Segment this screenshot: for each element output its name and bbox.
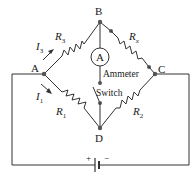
node-a bbox=[42, 72, 46, 76]
node-d bbox=[98, 126, 102, 130]
r1-label: R1 bbox=[55, 105, 67, 120]
r3-label: R3 bbox=[54, 30, 66, 45]
battery-plus-label: + bbox=[86, 153, 91, 163]
node-c bbox=[153, 72, 157, 76]
switch-label: Switch bbox=[96, 88, 123, 98]
i3-label: I3 bbox=[35, 40, 44, 55]
r2-label: R2 bbox=[132, 105, 144, 120]
node-b bbox=[98, 20, 102, 24]
node-label-c: C bbox=[158, 63, 165, 75]
resistor-r3 bbox=[44, 22, 100, 74]
ammeter-label: Ammeter bbox=[103, 69, 140, 79]
i3-arrow-icon bbox=[43, 49, 54, 60]
ammeter-symbol: A bbox=[96, 51, 104, 63]
i1-arrow-icon bbox=[41, 84, 52, 94]
node-label-b: B bbox=[95, 5, 102, 17]
resistor-r2 bbox=[100, 74, 155, 128]
i1-label: I1 bbox=[35, 90, 44, 105]
resistor-r1 bbox=[44, 74, 100, 128]
rx-label: Rx bbox=[128, 30, 140, 45]
node-label-d: D bbox=[95, 132, 103, 144]
wheatstone-bridge-diagram: + − B bbox=[0, 0, 193, 180]
battery-icon bbox=[94, 158, 103, 172]
resistor-rx bbox=[100, 22, 155, 74]
node-label-a: A bbox=[31, 62, 39, 74]
battery-minus-label: − bbox=[104, 153, 109, 163]
